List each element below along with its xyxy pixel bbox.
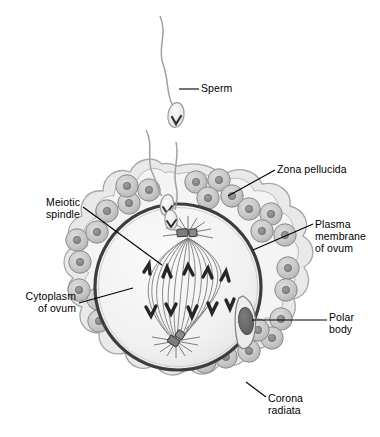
label-polar-body: Polar body: [329, 311, 354, 335]
sperm-cell: [160, 16, 186, 128]
diagram-canvas: Sperm Zona pellucida Plasma membrane of …: [0, 0, 380, 437]
label-cytoplasm-of-ovum: Cytoplasm of ovum: [2, 290, 76, 314]
sperm-tail: [160, 16, 172, 104]
label-meiotic-spindle: Meiotic spindle: [14, 196, 80, 220]
corona-cell: [116, 175, 138, 197]
corona-cell: [274, 224, 296, 246]
centriole-top: [177, 229, 198, 237]
corona-cell: [238, 198, 260, 220]
corona-cell: [69, 251, 91, 273]
label-corona-radiata: Corona radiata: [268, 392, 303, 416]
corona-cell: [66, 229, 88, 251]
label-zona-pellucida: Zona pellucida: [277, 163, 347, 175]
corona-cell: [251, 220, 273, 242]
label-plasma-membrane-of-ovum: Plasma membrane of ovum: [315, 218, 366, 255]
leader-corona-radiata: [246, 382, 266, 397]
corona-cell: [275, 279, 297, 301]
corona-cell: [86, 221, 108, 243]
label-sperm: Sperm: [201, 82, 232, 94]
corona-cell: [277, 257, 299, 279]
